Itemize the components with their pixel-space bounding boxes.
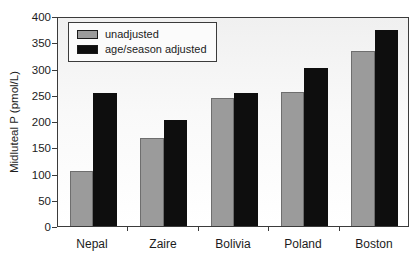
y-tick-mark xyxy=(52,201,57,202)
x-tick-mark xyxy=(268,227,269,231)
legend-item-unadjusted: unadjusted xyxy=(77,28,207,40)
legend-item-age-season-adjusted: age/season adjusted xyxy=(77,43,207,55)
bar-age-season-adjusted-zaire xyxy=(164,120,188,226)
y-tick-label: 250 xyxy=(16,90,51,102)
x-tick-mark xyxy=(339,227,340,231)
y-tick-mark xyxy=(52,148,57,149)
bar-unadjusted-zaire xyxy=(140,138,164,226)
legend-label-age-season-adjusted: age/season adjusted xyxy=(105,43,207,55)
x-tick-mark xyxy=(127,227,128,231)
x-category-label-zaire: Zaire xyxy=(127,238,199,251)
bar-unadjusted-poland xyxy=(281,92,305,226)
legend-label-unadjusted: unadjusted xyxy=(105,28,159,40)
y-tick-label: 300 xyxy=(16,64,51,76)
y-tick-label: 200 xyxy=(16,116,51,128)
y-tick-mark xyxy=(52,175,57,176)
x-category-label-boston: Boston xyxy=(338,238,410,251)
y-tick-mark xyxy=(52,17,57,18)
bar-unadjusted-bolivia xyxy=(211,98,235,226)
y-tick-label: 150 xyxy=(16,142,51,154)
bar-age-season-adjusted-boston xyxy=(375,30,399,226)
y-tick-mark xyxy=(52,70,57,71)
x-category-label-bolivia: Bolivia xyxy=(197,238,269,251)
bar-age-season-adjusted-poland xyxy=(304,68,328,226)
x-tick-mark xyxy=(198,227,199,231)
legend-swatch-unadjusted xyxy=(77,30,98,39)
y-tick-mark xyxy=(52,227,57,228)
y-tick-mark xyxy=(52,122,57,123)
y-tick-label: 50 xyxy=(16,195,51,207)
bar-age-season-adjusted-nepal xyxy=(93,93,117,226)
y-tick-mark xyxy=(52,96,57,97)
x-category-label-nepal: Nepal xyxy=(56,238,128,251)
y-tick-label: 350 xyxy=(16,37,51,49)
bar-chart-figure: Midluteal P (pmol/L) 0501001502002503003… xyxy=(0,0,417,258)
x-category-label-poland: Poland xyxy=(267,238,339,251)
bar-unadjusted-boston xyxy=(351,51,375,226)
legend-swatch-age-season-adjusted xyxy=(77,45,98,54)
bar-unadjusted-nepal xyxy=(70,171,94,226)
y-tick-mark xyxy=(52,43,57,44)
y-tick-label: 0 xyxy=(16,221,51,233)
bar-age-season-adjusted-bolivia xyxy=(234,93,258,226)
y-tick-label: 400 xyxy=(16,11,51,23)
legend: unadjustedage/season adjusted xyxy=(68,22,217,62)
y-tick-label: 100 xyxy=(16,169,51,181)
